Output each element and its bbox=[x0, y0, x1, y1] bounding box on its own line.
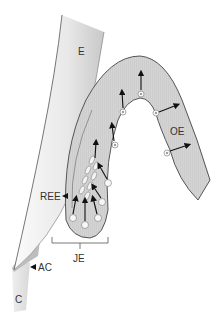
je-bracket bbox=[52, 237, 108, 249]
label-acellular-cementum: AC bbox=[38, 262, 52, 273]
label-oral-epithelium: OE bbox=[170, 126, 185, 137]
figure-caption bbox=[4, 322, 218, 332]
junctional-epithelium-diagram: E OE REE JE AC C bbox=[0, 0, 222, 332]
label-junctional-epithelium: JE bbox=[73, 253, 85, 264]
label-reduced-enamel-epithelium: REE bbox=[40, 191, 61, 202]
label-enamel: E bbox=[78, 46, 85, 57]
label-cementum: C bbox=[15, 294, 22, 305]
ac-pointer-icon bbox=[30, 264, 36, 270]
